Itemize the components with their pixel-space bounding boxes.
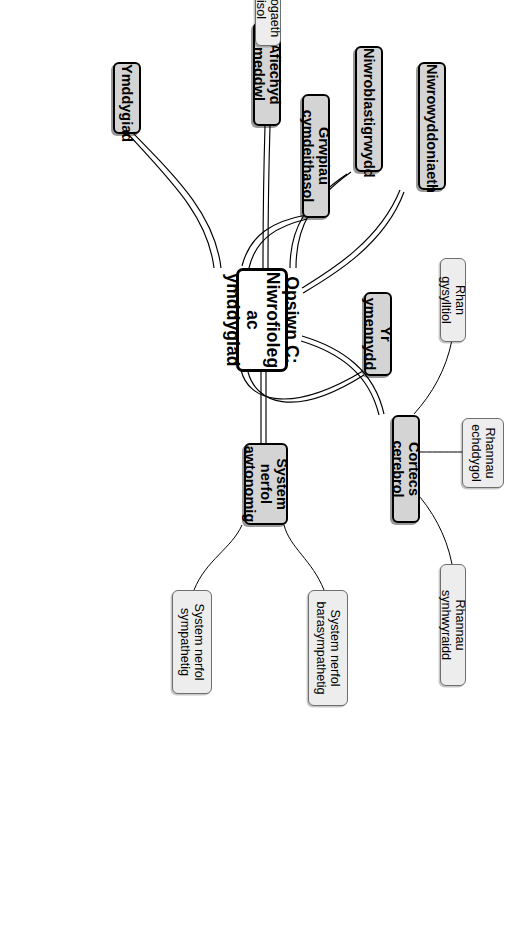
branch-label: Cortecs cerebrol xyxy=(390,417,422,521)
leaf-label: Rhannau echddygol xyxy=(469,419,497,487)
branch-label: Niwroblastigrwydd xyxy=(361,45,377,173)
mind-map-canvas: Opsiwn C: Niwrofioleg ac ymddygiad Grwpi… xyxy=(0,0,524,926)
branch-label: Ymddygiad xyxy=(119,61,135,135)
leaf-node-system-nerfol-sympathetig[interactable]: System nerfol sympathetig xyxy=(172,590,212,694)
branch-node-grwpiau-cymdeithasol[interactable]: Grwpiau cymdeithasol xyxy=(302,94,330,218)
leaf-node-rhan-gysylltiol[interactable]: Rhan gysylltiol xyxy=(440,258,466,342)
branch-node-ymddygiad[interactable]: Ymddygiad xyxy=(113,62,141,134)
branch-node-cortecs-cerebrol[interactable]: Cortecs cerebrol xyxy=(392,415,420,523)
branch-label: Grwpiau cymdeithasol xyxy=(300,96,332,216)
connector-root-b2-b xyxy=(241,370,363,399)
branch-label: Yr ymennydd xyxy=(362,294,394,374)
branch-label: System nerfol awtonomig xyxy=(242,443,291,526)
branch-node-yr-ymennydd[interactable]: Yr ymennydd xyxy=(364,292,392,376)
connector-root-b2 xyxy=(248,372,364,402)
leaf-label: Swyddogaeth cortisol xyxy=(254,0,282,45)
leaf-node-system-nerfol-barasympathetig[interactable]: System nerfol barasympathetig xyxy=(308,590,348,706)
root-node[interactable]: Opsiwn C: Niwrofioleg ac ymddygiad xyxy=(236,268,288,372)
leaf-label: System nerfol barasympathetig xyxy=(314,591,342,705)
root-node-label: Opsiwn C: Niwrofioleg ac ymddygiad xyxy=(223,269,301,371)
branch-label: Niwrowyddoniaeth xyxy=(424,61,440,191)
connector-root-b3-b xyxy=(128,134,214,268)
connector-root-b4 xyxy=(268,126,270,268)
leaf-label: System nerfol sympathetig xyxy=(178,591,206,693)
leaf-label: Rhan gysylltiol xyxy=(439,259,467,341)
connector-root-b4-b xyxy=(263,126,265,268)
mind-map-rotated-group: Opsiwn C: Niwrofioleg ac ymddygiad Grwpi… xyxy=(0,0,524,926)
leaf-label: Rhannau synhwyraidd xyxy=(439,565,467,685)
branch-node-niwroblastigrwydd[interactable]: Niwroblastigrwydd xyxy=(355,46,383,172)
leaf-node-rhannau-synhwyraidd[interactable]: Rhannau synhwyraidd xyxy=(440,564,466,686)
connector-b5-c2 xyxy=(284,525,324,590)
connector-b8-c4 xyxy=(414,340,452,414)
leaf-node-swyddogaeth-cortisol[interactable]: Swyddogaeth cortisol xyxy=(255,0,281,46)
leaf-node-rhannau-echddygol[interactable]: Rhannau echddygol xyxy=(462,418,504,488)
connector-b5-c3 xyxy=(194,525,242,590)
branch-node-niwrowyddoniaeth[interactable]: Niwrowyddoniaeth xyxy=(418,62,446,190)
branch-node-system-nerfol-awtonomig[interactable]: System nerfol awtonomig xyxy=(244,443,288,525)
